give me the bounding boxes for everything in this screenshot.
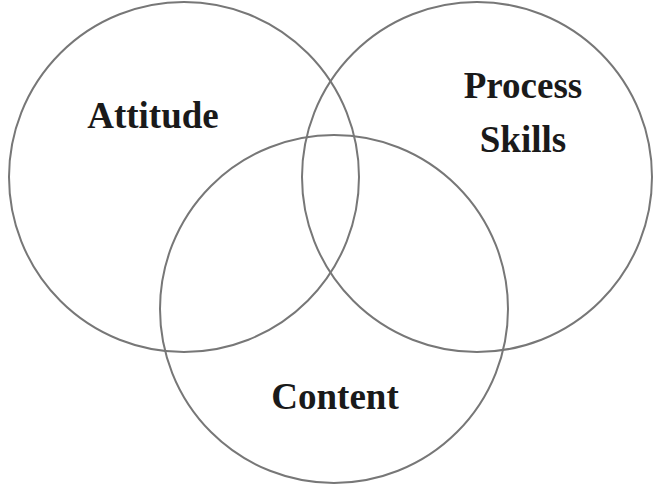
content-label: Content xyxy=(271,376,399,417)
process-skills-circle xyxy=(302,2,652,352)
attitude-circle xyxy=(9,2,359,352)
attitude-label: Attitude xyxy=(87,95,219,136)
process-skills-label-line-2: Skills xyxy=(480,119,566,160)
venn-diagram: Attitude Process Skills Content xyxy=(0,0,653,494)
process-skills-label-line-1: Process xyxy=(464,65,583,106)
content-circle xyxy=(160,135,508,483)
set-content: Content xyxy=(160,135,508,483)
set-process-skills: Process Skills xyxy=(302,2,652,352)
set-attitude: Attitude xyxy=(9,2,359,352)
